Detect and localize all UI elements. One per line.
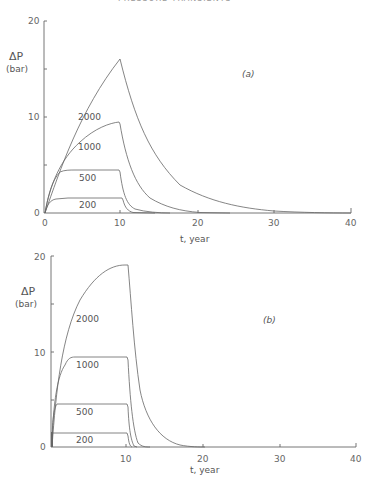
curve-label-a-2000: 2000 (78, 112, 101, 122)
chart-b: 20 10 0 10 20 30 40 ΔP (bar) t, year (b)… (15, 252, 362, 475)
xtick-a-0: 0 (42, 218, 48, 228)
xtick-b-30: 30 (274, 454, 286, 464)
curve-a-200 (45, 198, 155, 213)
curve-label-a-500: 500 (79, 173, 96, 183)
xtick-b-10: 10 (120, 454, 132, 464)
curve-a-500 (45, 170, 170, 213)
curve-a-2000 (45, 59, 351, 213)
ytick-a-10: 10 (28, 112, 40, 122)
panel-label-a: (a) (242, 69, 255, 79)
curve-label-b-2000: 2000 (76, 314, 99, 324)
ytick-b-0: 0 (40, 442, 46, 452)
xlabel-a: t, year (180, 234, 210, 244)
ytick-b-10: 10 (34, 348, 46, 358)
xtick-a-30: 30 (268, 218, 280, 228)
curve-label-b-1000: 1000 (76, 360, 99, 370)
curve-b-1000 (52, 357, 150, 447)
ylabel-a-unit: (bar) (6, 64, 28, 74)
ytick-a-0: 0 (34, 208, 40, 218)
ylabel-b: ΔP (21, 285, 36, 298)
xtick-a-40: 40 (345, 218, 357, 228)
ytick-a-20: 20 (28, 16, 40, 26)
xtick-a-20: 20 (192, 218, 204, 228)
curve-a-1000 (45, 122, 230, 213)
chart-a: 20 10 0 0 10 20 30 40 ΔP (bar) t, year (… (6, 16, 357, 244)
xtick-a-10: 10 (114, 218, 126, 228)
xlabel-b: t, year (190, 465, 220, 475)
ylabel-a: ΔP (9, 50, 24, 63)
curve-label-a-1000: 1000 (78, 142, 101, 152)
curve-label-b-200: 200 (76, 435, 93, 445)
xtick-b-40: 40 (350, 454, 362, 464)
panel-label-b: (b) (263, 315, 276, 325)
curve-label-b-500: 500 (76, 407, 93, 417)
figure: 20 10 0 0 10 20 30 40 ΔP (bar) t, year (… (0, 0, 374, 490)
curve-label-a-200: 200 (79, 200, 96, 210)
ylabel-b-unit: (bar) (15, 299, 37, 309)
xtick-b-20: 20 (197, 454, 209, 464)
ytick-b-20: 20 (34, 252, 46, 262)
curve-b-500 (52, 404, 137, 447)
